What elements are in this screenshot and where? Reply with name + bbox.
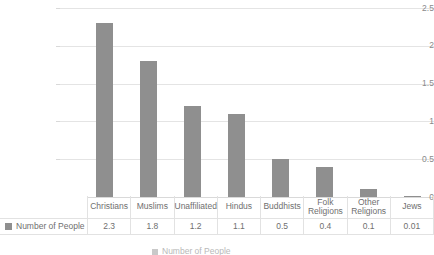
value-cell-other-religions: 0.1 <box>347 219 390 235</box>
category-cell-unaffiliated: Unaffiliated <box>174 196 217 219</box>
bottom-legend: Number of People <box>152 247 272 255</box>
value-cell-unaffiliated: 1.2 <box>174 219 217 235</box>
y-axis-tick-mark <box>56 121 60 122</box>
value-cell-buddhists: 0.5 <box>261 219 304 235</box>
bar-slot <box>170 8 214 197</box>
legend-label: Number of People <box>16 222 85 232</box>
data-table: Christians Muslims Unaffiliated Hindus B… <box>0 196 434 235</box>
bar-slot <box>302 8 346 197</box>
category-row-spacer <box>0 196 88 219</box>
value-cell-hindus: 1.1 <box>217 219 260 235</box>
plot-area: 00.511.522.5 <box>0 0 434 208</box>
bar-slot <box>82 8 126 197</box>
bar-muslims <box>140 61 157 197</box>
y-axis-tick-mark <box>56 46 60 47</box>
value-cell-folk-religions: 0.4 <box>304 219 347 235</box>
table-row-categories: Christians Muslims Unaffiliated Hindus B… <box>0 196 434 219</box>
value-cell-jews: 0.01 <box>390 219 433 235</box>
category-cell-buddhists: Buddhists <box>261 196 304 219</box>
legend-entry: Number of People <box>0 219 88 235</box>
category-cell-hindus: Hindus <box>217 196 260 219</box>
bar-slot <box>214 8 258 197</box>
bar-slot <box>346 8 390 197</box>
category-cell-other-religions: Other Religions <box>347 196 390 219</box>
bar-slot <box>258 8 302 197</box>
bottom-legend-swatch-icon <box>152 249 158 255</box>
category-cell-christians: Christians <box>88 196 131 219</box>
table-row-values: Number of People 2.3 1.8 1.2 1.1 0.5 0.4… <box>0 219 434 235</box>
value-cell-christians: 2.3 <box>88 219 131 235</box>
y-axis-tick-mark <box>56 8 60 9</box>
bar-folk-religions <box>316 167 333 197</box>
legend-swatch-icon <box>5 223 12 230</box>
bar-christians <box>96 23 113 197</box>
y-axis-tick-mark <box>56 84 60 85</box>
category-cell-jews: Jews <box>390 196 433 219</box>
category-cell-muslims: Muslims <box>131 196 174 219</box>
bar-slot <box>390 8 434 197</box>
bar-chart: 00.511.522.5 Christians Muslims Unaffili… <box>0 0 434 255</box>
bar-hindus <box>228 114 245 197</box>
value-cell-muslims: 1.8 <box>131 219 174 235</box>
bars-group <box>82 0 434 208</box>
bottom-legend-label: Number of People <box>162 247 231 255</box>
bar-unaffiliated <box>184 106 201 197</box>
y-axis-tick-mark <box>56 159 60 160</box>
bar-slot <box>126 8 170 197</box>
category-cell-folk-religions: Folk Religions <box>304 196 347 219</box>
bar-buddhists <box>272 159 289 197</box>
